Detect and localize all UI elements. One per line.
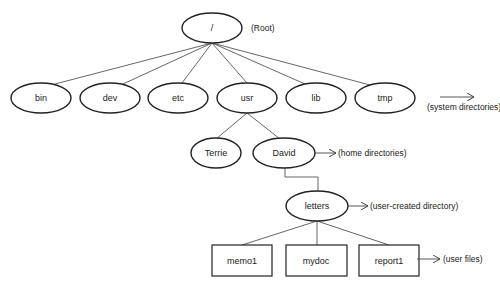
- node-dev: dev: [80, 83, 140, 113]
- node-usr: usr: [217, 83, 277, 113]
- david-label: David: [272, 148, 295, 158]
- node-bin: bin: [11, 83, 71, 113]
- node-terrie: Terrie: [191, 138, 241, 168]
- system-dirs-note: (system directories): [427, 102, 500, 112]
- mydoc-label: mydoc: [303, 256, 330, 266]
- report1-label: report1: [375, 256, 404, 266]
- node-david: David: [253, 138, 315, 168]
- root-node: /: [182, 13, 242, 43]
- lib-label: lib: [311, 93, 320, 103]
- node-letters: letters: [286, 191, 348, 221]
- dev-label: dev: [103, 93, 118, 103]
- root-note: (Root): [251, 23, 275, 33]
- tmp-label: tmp: [377, 93, 392, 103]
- user-dir-note: (user-created directory): [370, 201, 459, 211]
- etc-label: etc: [172, 93, 185, 103]
- node-report1: report1: [359, 245, 419, 276]
- user-files-note: (user files): [443, 254, 483, 264]
- node-mydoc: mydoc: [286, 245, 347, 276]
- bin-label: bin: [35, 93, 47, 103]
- node-memo1: memo1: [212, 245, 272, 276]
- letters-label: letters: [305, 201, 330, 211]
- terrie-label: Terrie: [205, 148, 228, 158]
- node-tmp: tmp: [355, 83, 415, 113]
- directory-tree-diagram: / (Root) bin dev etc usr lib tmp (system…: [0, 0, 500, 288]
- node-lib: lib: [286, 83, 346, 113]
- memo1-label: memo1: [227, 256, 257, 266]
- node-etc: etc: [148, 83, 208, 113]
- home-dirs-note: (home directories): [338, 148, 407, 158]
- usr-label: usr: [241, 93, 254, 103]
